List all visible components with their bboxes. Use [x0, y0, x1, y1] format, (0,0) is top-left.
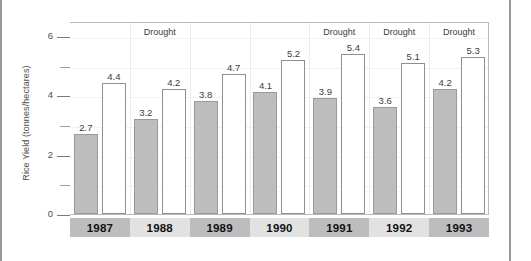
bar-white: 5.1	[401, 63, 425, 214]
y-tick-minor	[60, 126, 70, 127]
y-tick-major	[57, 156, 70, 157]
x-axis-category-label: 1987	[70, 218, 130, 237]
bar-gray: 3.9	[313, 98, 337, 214]
y-tick-major	[57, 37, 70, 38]
x-axis-category-label: 1993	[429, 218, 489, 237]
bar-gray: 3.6	[373, 107, 397, 214]
y-tick-label: 6	[35, 30, 53, 41]
drought-annotation: Drought	[443, 27, 475, 37]
y-tick-minor	[60, 67, 70, 68]
x-axis-category-label: 1992	[369, 218, 429, 237]
x-axis-category-label: 1990	[250, 218, 310, 237]
drought-annotation: Drought	[383, 27, 415, 37]
bar-gray: 3.2	[134, 119, 158, 214]
y-tick-major	[57, 96, 70, 97]
bar-gray: 4.2	[433, 89, 457, 214]
bar-value-label: 5.3	[466, 45, 479, 56]
bar-value-label: 4.4	[107, 71, 120, 82]
bar-value-label: 3.6	[379, 95, 392, 106]
bar-group: 3.65.1	[369, 23, 429, 214]
y-tick-label: 0	[35, 208, 53, 219]
plot-area: 2.74.43.24.23.84.74.15.23.95.43.65.14.25…	[70, 22, 489, 215]
drought-annotation: Drought	[323, 27, 355, 37]
bar-group: 3.95.4	[309, 23, 369, 214]
bar-group: 4.15.2	[250, 23, 310, 214]
bar-group: 3.24.2	[130, 23, 190, 214]
x-axis-category-label: 1988	[130, 218, 190, 237]
bar-white: 4.7	[222, 74, 246, 214]
bar-value-label: 4.2	[167, 77, 180, 88]
y-tick-label: 2	[35, 149, 53, 160]
bar-value-label: 3.2	[139, 107, 152, 118]
bar-group: 4.25.3	[429, 23, 489, 214]
bar-white: 4.4	[102, 83, 126, 214]
bar-white: 5.3	[461, 57, 485, 214]
rice-yield-bar-chart: Rice Yield (tonnes/hectares) 0246 2.74.4…	[0, 0, 531, 261]
bar-gray: 2.7	[74, 134, 98, 214]
x-axis-category-band: 1987198819891990199119921993	[70, 218, 489, 237]
bar-white: 5.4	[341, 54, 365, 214]
bar-value-label: 4.1	[259, 80, 272, 91]
y-tick-major	[57, 215, 70, 216]
bar-group: 3.84.7	[190, 23, 250, 214]
drought-annotation: Drought	[144, 27, 176, 37]
plot-inner: 2.74.43.24.23.84.74.15.23.95.43.65.14.25…	[70, 23, 488, 214]
bar-white: 5.2	[281, 60, 305, 214]
bar-value-label: 3.8	[199, 89, 212, 100]
bar-white: 4.2	[162, 89, 186, 214]
bar-gray: 4.1	[253, 92, 277, 214]
bar-value-label: 5.4	[347, 42, 360, 53]
bar-group: 2.74.4	[70, 23, 130, 214]
bar-value-label: 3.9	[319, 86, 332, 97]
y-tick-minor	[60, 185, 70, 186]
x-axis-category-label: 1989	[190, 218, 250, 237]
bar-value-label: 4.2	[438, 77, 451, 88]
bar-value-label: 4.7	[227, 62, 240, 73]
bar-value-label: 2.7	[79, 122, 92, 133]
bar-value-label: 5.1	[407, 51, 420, 62]
bar-value-label: 5.2	[287, 48, 300, 59]
y-axis-title: Rice Yield (tonnes/hectares)	[21, 33, 31, 213]
bar-gray: 3.8	[194, 101, 218, 214]
y-tick-label: 4	[35, 89, 53, 100]
x-axis-category-label: 1991	[309, 218, 369, 237]
